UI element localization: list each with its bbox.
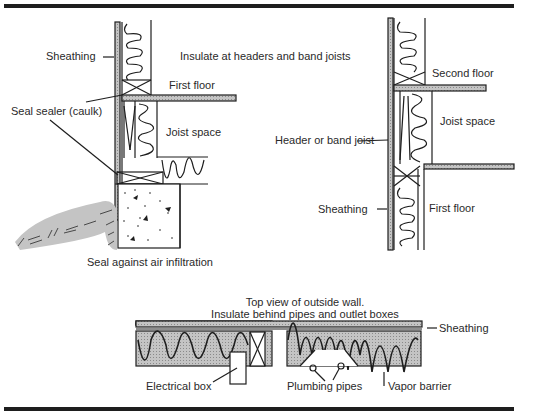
second-floor-label: Second floor: [432, 67, 494, 80]
right-joist-space-label: Joist space: [440, 115, 495, 128]
top-view-wall: [136, 321, 437, 386]
plumbing-pipes-label: Plumbing pipes: [287, 380, 362, 393]
left-joist-space-label: Joist space: [166, 126, 221, 139]
top-view-sheathing-label: Sheathing: [439, 322, 489, 335]
header-band-joist-label: Header or band joist: [275, 134, 374, 147]
top-view-title-line2: Insulate behind pipes and outlet boxes: [180, 308, 430, 321]
electrical-box-label: Electrical box: [146, 380, 211, 393]
left-sheathing-label: Sheathing: [46, 50, 96, 63]
seal-sealer-label: Seal sealer (caulk): [11, 105, 102, 118]
left-first-floor-label: First floor: [169, 79, 215, 92]
right-wall-section: [357, 18, 514, 250]
vapor-barrier-label: Vapor barrier: [388, 380, 451, 393]
right-sheathing-label: Sheathing: [318, 203, 368, 216]
right-first-floor-label: First floor: [429, 202, 475, 215]
insulate-headers-title: Insulate at headers and band joists: [180, 50, 351, 63]
seal-air-infiltration-label: Seal against air infiltration: [87, 256, 213, 269]
